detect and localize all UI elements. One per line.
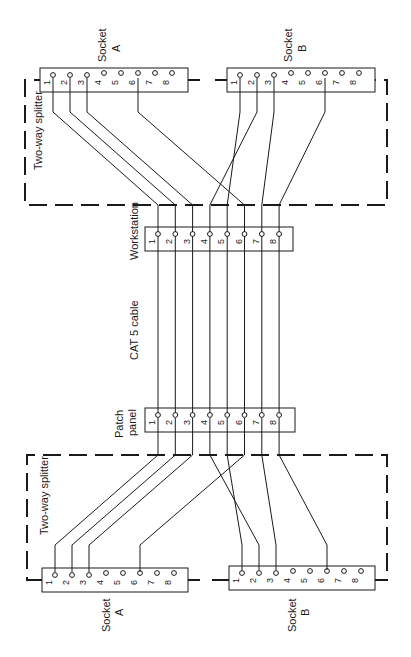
- pin-number: 7: [251, 239, 261, 244]
- pin-terminal: [225, 413, 230, 418]
- pin-terminal: [357, 71, 362, 76]
- pin-number: 8: [348, 80, 358, 85]
- pin-number: 5: [112, 580, 122, 585]
- pin-number: 7: [144, 80, 154, 85]
- wiring-diagram: Two-way splitter 12345678 Socket A 12345…: [0, 0, 411, 657]
- pin-terminal: [190, 413, 195, 418]
- pin-terminal: [156, 413, 161, 418]
- patch-panel-connector: 12345678: [145, 408, 295, 432]
- pin-terminal: [277, 413, 282, 418]
- pin-number: 8: [161, 80, 171, 85]
- pin-terminal: [291, 569, 296, 574]
- pin-terminal: [87, 573, 92, 578]
- bottom-socket-a: 12345678: [42, 568, 188, 592]
- pin-terminal: [274, 571, 279, 576]
- bottom-socket-b-label: Socket: [286, 598, 298, 632]
- pin-terminal: [104, 571, 109, 576]
- bottom-socket-a-letter: A: [113, 608, 125, 616]
- pin-number: 2: [164, 239, 174, 244]
- wire: [70, 78, 175, 232]
- workstation-label: Workstation: [128, 202, 140, 260]
- wire: [262, 78, 274, 232]
- wire: [279, 418, 327, 570]
- top-socket-b-letter: B: [296, 45, 308, 52]
- pin-terminal: [289, 71, 294, 76]
- pin-terminal: [255, 73, 260, 78]
- top-socket-b: 12345678: [227, 68, 375, 92]
- pin-number: 2: [164, 420, 174, 425]
- pin-number: 8: [268, 420, 278, 425]
- pin-number: 3: [182, 239, 192, 244]
- pin-terminal: [136, 71, 141, 76]
- pin-terminal: [242, 232, 247, 237]
- pin-number: 5: [110, 80, 120, 85]
- pin-terminal: [240, 571, 245, 576]
- pin-number: 4: [95, 580, 105, 585]
- wire: [210, 418, 259, 570]
- pin-number: 6: [314, 80, 324, 85]
- pin-terminal: [102, 71, 107, 76]
- pin-number: 4: [199, 239, 209, 244]
- pin-number: 4: [280, 80, 290, 85]
- pin-number: 8: [350, 578, 360, 583]
- bottom-splitter-label: Two-way splitter: [38, 456, 50, 535]
- pin-number: 2: [61, 580, 71, 585]
- pin-terminal: [277, 232, 282, 237]
- pin-terminal: [53, 573, 58, 578]
- wires: [53, 78, 327, 572]
- workstation-connector: 12345678: [145, 227, 293, 251]
- wire: [138, 78, 245, 232]
- pin-terminal: [323, 71, 328, 76]
- pin-terminal: [342, 569, 347, 574]
- pin-number: 4: [199, 420, 209, 425]
- pin-number: 5: [299, 578, 309, 583]
- pin-terminal: [156, 232, 161, 237]
- wire: [279, 78, 325, 232]
- pin-terminal: [359, 569, 364, 574]
- bottom-socket-b: 12345678: [229, 566, 375, 590]
- pin-number: 4: [93, 80, 103, 85]
- pin-terminal: [208, 413, 213, 418]
- pin-terminal: [153, 71, 158, 76]
- pin-terminal: [172, 571, 177, 576]
- pin-terminal: [119, 71, 124, 76]
- pin-terminal: [242, 413, 247, 418]
- wire: [210, 78, 257, 232]
- pin-terminal: [225, 232, 230, 237]
- pin-number: 8: [268, 239, 278, 244]
- pin-number: 6: [234, 420, 244, 425]
- cat5-cable-label: CAT 5 cable: [128, 300, 140, 360]
- top-socket-a-letter: A: [110, 44, 122, 52]
- wire: [227, 418, 242, 570]
- wire: [53, 78, 158, 232]
- top-socket-a-label: Socket: [96, 28, 108, 62]
- pin-terminal: [257, 571, 262, 576]
- pin-number: 8: [163, 580, 173, 585]
- top-socket-a: 12345678: [40, 68, 188, 92]
- top-splitter-label: Two-way splitter: [32, 91, 44, 170]
- wire: [262, 418, 276, 570]
- bottom-socket-a-label: Socket: [100, 598, 112, 632]
- pin-terminal: [308, 569, 313, 574]
- pin-number: 4: [282, 578, 292, 583]
- pin-number: 1: [147, 239, 157, 244]
- wire: [72, 418, 175, 572]
- pin-number: 7: [146, 580, 156, 585]
- pin-number: 1: [231, 578, 241, 583]
- pin-terminal: [238, 73, 243, 78]
- pin-terminal: [173, 232, 178, 237]
- pin-number: 5: [216, 239, 226, 244]
- pin-terminal: [68, 73, 73, 78]
- pin-number: 6: [127, 80, 137, 85]
- bottom-socket-b-letter: B: [299, 609, 311, 616]
- pin-number: 3: [263, 80, 273, 85]
- pin-terminal: [173, 413, 178, 418]
- top-splitter-enclosure: [25, 80, 387, 205]
- pin-number: 3: [78, 580, 88, 585]
- pin-number: 6: [234, 239, 244, 244]
- pin-terminal: [155, 571, 160, 576]
- pin-terminal: [85, 73, 90, 78]
- wire: [89, 418, 193, 572]
- pin-terminal: [51, 73, 56, 78]
- pin-terminal: [208, 232, 213, 237]
